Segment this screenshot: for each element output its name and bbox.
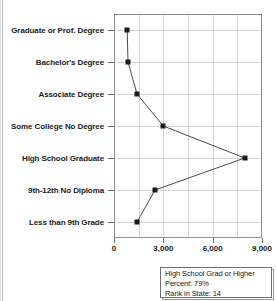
x-axis-tick [163,238,164,243]
x-axis-tick [213,238,214,243]
x-axis-tick-label: 0 [112,244,116,253]
y-axis-category-label: Bachelor's Degree [36,58,104,67]
y-axis-category-label: High School Graduate [22,154,104,163]
gridline-horizontal [115,62,261,63]
infobox-rank: Rank in State: 14 [161,289,271,299]
gridline-horizontal [115,30,261,31]
data-point-marker [135,220,140,225]
data-point-marker [125,60,130,65]
data-point-marker [153,188,158,193]
data-point-marker [242,156,247,161]
x-axis-tick-label: 6,000 [203,244,223,253]
infobox-percent: Percent: 79% [161,279,271,289]
education-attainment-chart: Graduate or Prof. DegreeBachelor's Degre… [0,0,276,301]
x-axis-tick [262,238,263,243]
y-axis-category-label: Some College No Degree [11,122,104,131]
y-axis-labels: Graduate or Prof. DegreeBachelor's Degre… [0,0,110,250]
x-axis-tick-label: 3,000 [153,244,173,253]
y-axis-category-label: Graduate or Prof. Degree [11,26,104,35]
data-point-marker [161,124,166,129]
data-point-marker [135,92,140,97]
plot-area [114,14,262,238]
y-axis-category-label: Associate Degree [38,90,104,99]
summary-info-box: High School Grad or Higher Percent: 79% … [160,267,272,298]
gridline-horizontal [115,158,261,159]
y-axis-category-label: 9th-12th No Diploma [28,186,104,195]
infobox-title: High School Grad or Higher [161,268,271,279]
gridline-horizontal [115,190,261,191]
data-point-marker [125,28,130,33]
x-axis-tick [114,238,115,243]
y-axis-category-label: Less than 9th Grade [29,218,104,227]
gridline-horizontal [115,126,261,127]
x-axis-tick-label: 9,000 [252,244,272,253]
